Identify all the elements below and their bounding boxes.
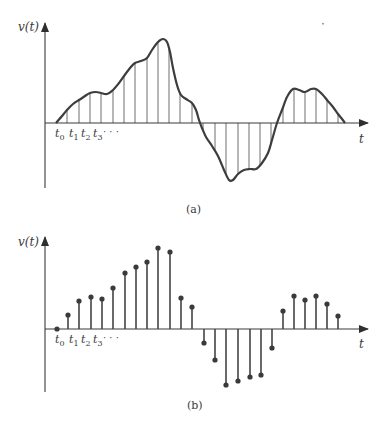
sample-dot [258,372,263,377]
sample-dot [110,285,115,290]
sample-stem [258,329,263,378]
ellipsis: · · · [103,126,119,137]
x-axis-label: t [359,337,364,351]
sample-dot [201,340,206,345]
sample-stem [335,313,340,329]
sample-stem [313,293,318,329]
tick-label-t0: t0 [55,127,65,142]
sample-dot [235,378,240,383]
sample-dot [167,249,172,254]
signal-curve [56,39,345,181]
tick-labels: t0t1t2t3 [55,333,103,348]
sample-dot [291,293,296,298]
sample-stem [269,329,274,351]
tick-label-t2: t2 [81,333,91,348]
sample-dot [280,308,285,313]
sample-dot [122,270,127,275]
sample-stem [324,301,329,329]
sample-stem [201,329,206,346]
sample-dot [133,264,138,269]
sampling-diagram: v(t) t t0t1t2t3 · · · (a) v(t) t t0t1t2t… [0,0,387,425]
sample-stem [280,308,285,329]
sample-dot [189,304,194,309]
sample-stem [65,312,70,329]
sample-stem [223,329,228,388]
panel-b-sampled-signal: v(t) t t0t1t2t3 · · · (b) [18,235,368,412]
sample-dot [269,345,274,350]
sample-dot [76,298,81,303]
tick-labels: t0t1t2t3 [55,127,103,142]
sample-dot [65,312,70,317]
sample-dot [99,296,104,301]
speck-artifact [322,23,324,25]
sample-stem [291,293,296,329]
sample-stem [99,296,104,329]
sample-stem [133,264,138,329]
sample-stem [144,259,149,329]
tick-label-t2: t2 [81,127,91,142]
sample-dot [247,374,252,379]
sample-stem [302,297,307,329]
sample-stems [54,245,340,387]
y-axis-label: v(t) [18,20,39,34]
sample-dot [302,297,307,302]
ellipsis: · · · [103,332,119,343]
sample-dot [155,245,160,250]
sample-stem [167,249,172,329]
tick-label-t1: t1 [69,333,79,348]
tick-label-t1: t1 [69,127,79,142]
tick-label-t0: t0 [55,333,65,348]
y-axis-label: v(t) [18,235,39,249]
sample-stem [189,304,194,329]
sample-stem [110,285,115,329]
sample-dot [324,301,329,306]
sample-dot [335,313,340,318]
sample-lines [67,42,338,174]
sample-dot [88,294,93,299]
sample-stem [88,294,93,329]
sample-dot [54,326,59,331]
x-axis-label: t [359,132,364,146]
tick-label-t3: t3 [93,333,103,348]
sample-dot [212,357,217,362]
sample-dot [223,382,228,387]
sample-stem [122,270,127,329]
tick-label-t3: t3 [93,127,103,142]
caption-b: (b) [187,399,203,412]
sample-stem [155,245,160,329]
sample-dot [178,295,183,300]
sample-stem [247,329,252,380]
sample-stem [54,326,59,331]
sample-stem [76,298,81,329]
panel-a-continuous-signal: v(t) t t0t1t2t3 · · · (a) [18,20,368,216]
sample-stem [212,329,217,363]
sample-stem [178,295,183,329]
sample-dot [313,293,318,298]
caption-a: (a) [186,203,201,216]
sample-dot [144,259,149,264]
sample-stem [235,329,240,384]
